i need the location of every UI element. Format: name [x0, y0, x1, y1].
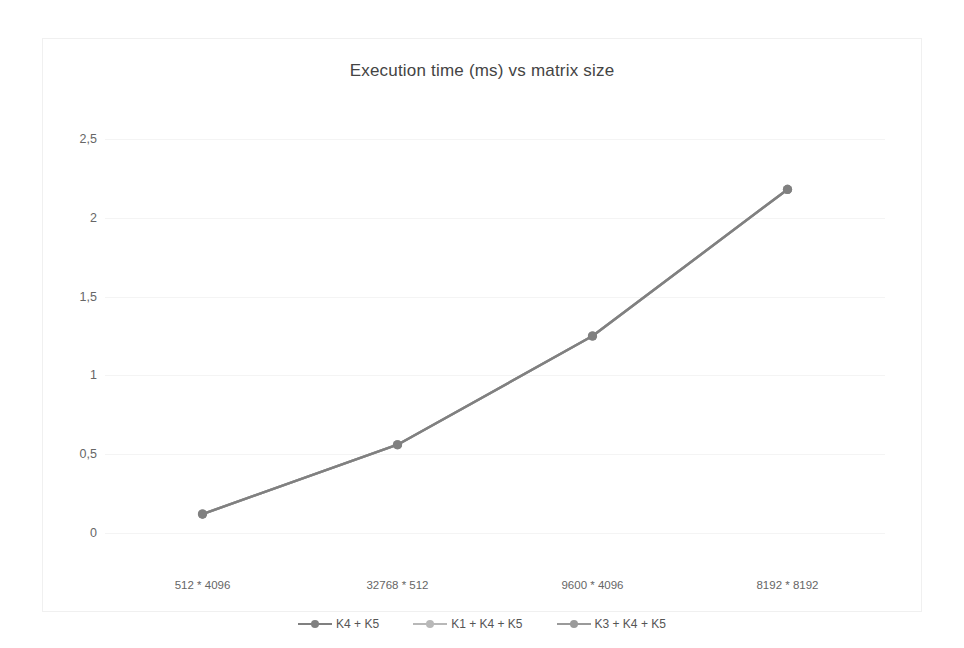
x-tick-label: 9600 * 4096	[561, 579, 623, 591]
legend-marker-icon	[557, 618, 591, 630]
data-point-marker	[393, 440, 402, 449]
chart-title: Execution time (ms) vs matrix size	[43, 61, 921, 81]
legend-item[interactable]: K1 + K4 + K5	[413, 617, 522, 631]
chart-legend: K4 + K5K1 + K4 + K5K3 + K4 + K5	[43, 617, 921, 631]
series-line	[203, 189, 788, 514]
series-layer	[105, 139, 885, 533]
y-tick-label: 2,5	[57, 132, 97, 146]
legend-marker-icon	[298, 618, 332, 630]
y-tick-label: 0,5	[57, 447, 97, 461]
y-axis: 00,511,522,5	[53, 139, 97, 533]
y-tick-label: 1,5	[57, 290, 97, 304]
legend-item[interactable]: K3 + K4 + K5	[557, 617, 666, 631]
series-line	[203, 189, 788, 514]
gridline	[105, 533, 885, 534]
series-line	[203, 189, 788, 514]
x-axis: 512 * 409632768 * 5129600 * 40968192 * 8…	[105, 579, 885, 599]
data-point-marker	[198, 509, 207, 518]
legend-item[interactable]: K4 + K5	[298, 617, 379, 631]
plot-area	[105, 139, 885, 533]
legend-label: K1 + K4 + K5	[451, 617, 522, 631]
x-tick-label: 8192 * 8192	[756, 579, 818, 591]
x-tick-label: 32768 * 512	[366, 579, 428, 591]
legend-label: K4 + K5	[336, 617, 379, 631]
y-tick-label: 2	[57, 211, 97, 225]
legend-label: K3 + K4 + K5	[595, 617, 666, 631]
y-tick-label: 1	[57, 368, 97, 382]
data-point-marker	[783, 185, 792, 194]
data-point-marker	[588, 331, 597, 340]
legend-marker-icon	[413, 618, 447, 630]
x-tick-label: 512 * 4096	[175, 579, 231, 591]
chart-frame: Execution time (ms) vs matrix size 00,51…	[42, 38, 922, 612]
y-tick-label: 0	[57, 526, 97, 540]
